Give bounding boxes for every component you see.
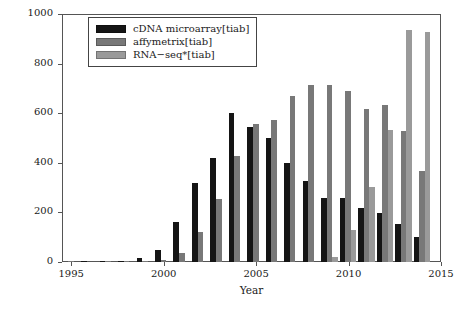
bar — [271, 120, 277, 262]
bar — [290, 96, 296, 262]
y-tick-label: 1000 — [28, 7, 53, 18]
legend-label: affymetrix[tiab] — [133, 37, 212, 47]
y-tick-label: 400 — [34, 156, 53, 167]
legend-item: RNA−seq*[tiab] — [96, 48, 249, 61]
y-tick-mark — [58, 262, 62, 263]
bar — [179, 253, 185, 262]
bar — [124, 261, 130, 262]
x-tick-label: 1995 — [53, 268, 89, 279]
legend-item: cDNA microarray[tiab] — [96, 22, 249, 35]
x-tick-label: 2000 — [146, 268, 182, 279]
chart-legend: cDNA microarray[tiab]affymetrix[tiab]RNA… — [88, 17, 257, 67]
bar — [161, 260, 167, 262]
bar — [253, 124, 259, 262]
x-axis-title: Year — [62, 284, 441, 296]
bar — [105, 261, 111, 262]
bar — [406, 30, 412, 262]
y-tick-label: 600 — [34, 106, 53, 117]
legend-item: affymetrix[tiab] — [96, 35, 249, 48]
bar — [388, 130, 394, 262]
y-tick-label: 0 — [47, 255, 53, 266]
bar — [68, 261, 74, 262]
y-tick-label: 200 — [34, 205, 53, 216]
bar — [425, 32, 431, 262]
bar — [142, 261, 148, 262]
bar — [198, 232, 204, 263]
y-tick-label: 800 — [34, 57, 53, 68]
bar — [216, 199, 222, 262]
bar — [234, 156, 240, 262]
bar — [369, 187, 375, 262]
legend-swatch-icon — [96, 25, 126, 33]
x-tick-mark — [164, 262, 165, 266]
bar — [308, 85, 314, 262]
x-tick-mark — [256, 262, 257, 266]
legend-swatch-icon — [96, 38, 126, 46]
legend-label: RNA−seq*[tiab] — [133, 50, 215, 60]
figure-bar-chart: Pubmed citation Year 02004006008001000 1… — [0, 0, 455, 318]
x-tick-label: 2015 — [423, 268, 455, 279]
x-tick-label: 2005 — [238, 268, 274, 279]
bar — [81, 261, 87, 262]
bar — [327, 85, 333, 262]
legend-swatch-icon — [96, 51, 126, 59]
x-tick-mark — [441, 262, 442, 266]
legend-label: cDNA microarray[tiab] — [133, 24, 249, 34]
bar — [351, 230, 357, 262]
x-tick-label: 2010 — [331, 268, 367, 279]
bar — [332, 257, 338, 262]
x-tick-mark — [71, 262, 72, 266]
x-tick-mark — [349, 262, 350, 266]
